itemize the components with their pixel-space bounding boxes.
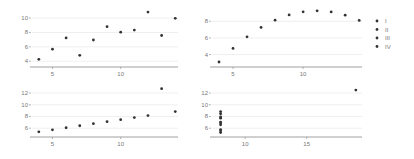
y-tick-label: 6 <box>205 125 209 131</box>
legend: IIIIIIIV <box>376 18 391 50</box>
data-point <box>51 128 54 131</box>
y-tick-label: 12 <box>201 90 208 96</box>
data-point <box>133 116 136 119</box>
legend-marker-icon <box>376 37 379 40</box>
legend-label: III <box>385 35 390 41</box>
data-point <box>219 116 222 119</box>
data-point <box>274 19 277 22</box>
legend-item-II[interactable]: II <box>376 27 389 33</box>
data-point <box>160 87 163 90</box>
data-point <box>288 13 291 16</box>
data-point <box>218 61 221 64</box>
y-tick-label: 8 <box>25 113 29 119</box>
panel-I: 46810510 <box>21 11 178 77</box>
data-point <box>133 29 136 32</box>
data-point <box>344 14 347 17</box>
data-point <box>160 34 163 37</box>
data-point <box>37 130 40 133</box>
legend-item-III[interactable]: III <box>376 35 391 41</box>
data-point <box>174 110 177 113</box>
data-point <box>106 120 109 123</box>
x-tick-label: 5 <box>231 71 235 77</box>
y-tick-label: 12 <box>21 90 28 96</box>
data-point <box>260 26 263 29</box>
data-point <box>147 114 150 117</box>
y-tick-label: 6 <box>25 125 29 131</box>
x-tick-label: 5 <box>51 71 55 77</box>
legend-marker-icon <box>376 45 379 48</box>
y-tick-label: 4 <box>25 58 29 64</box>
data-point <box>358 19 361 22</box>
data-point <box>92 39 95 42</box>
legend-label: II <box>385 27 389 33</box>
y-tick-label: 6 <box>25 44 29 50</box>
data-point <box>65 126 68 129</box>
data-point <box>219 129 222 132</box>
data-point <box>302 10 305 13</box>
x-tick-label: 5 <box>51 141 55 147</box>
data-point <box>354 89 357 92</box>
data-point <box>78 54 81 57</box>
data-point <box>78 124 81 127</box>
y-tick-label: 8 <box>25 29 29 35</box>
x-tick-label: 15 <box>303 141 310 147</box>
x-tick-label: 10 <box>117 141 124 147</box>
panel-II: 468510 <box>205 9 362 77</box>
x-tick-label: 10 <box>242 141 249 147</box>
data-point <box>106 25 109 28</box>
data-point <box>219 122 222 125</box>
data-point <box>119 118 122 121</box>
legend-label: IV <box>385 44 391 50</box>
panel-III: 681012510 <box>21 87 178 147</box>
y-tick-label: 10 <box>21 15 28 21</box>
legend-item-IV[interactable]: IV <box>376 44 391 50</box>
legend-marker-icon <box>376 28 379 31</box>
y-tick-label: 8 <box>205 113 209 119</box>
data-point <box>37 58 40 61</box>
y-tick-label: 10 <box>21 102 28 108</box>
data-point <box>316 9 319 12</box>
y-tick-label: 6 <box>205 35 209 41</box>
legend-item-I[interactable]: I <box>376 18 387 24</box>
data-point <box>65 37 68 40</box>
y-tick-label: 10 <box>201 102 208 108</box>
y-tick-label: 4 <box>205 52 209 58</box>
y-tick-label: 8 <box>205 18 209 24</box>
anscombe-quartet-chart: 468105104685106810125106810121015IIIIIII… <box>0 0 414 159</box>
legend-label: I <box>385 18 387 24</box>
data-point <box>330 11 333 14</box>
legend-marker-icon <box>376 20 379 23</box>
data-point <box>147 11 150 14</box>
data-point <box>92 122 95 125</box>
data-point <box>51 48 54 51</box>
data-point <box>119 31 122 34</box>
data-point <box>232 47 235 50</box>
x-tick-label: 10 <box>117 71 124 77</box>
x-tick-label: 10 <box>300 71 307 77</box>
panel-IV: 6810121015 <box>201 89 362 147</box>
data-point <box>246 35 249 38</box>
data-point <box>219 112 222 115</box>
data-point <box>174 17 177 20</box>
